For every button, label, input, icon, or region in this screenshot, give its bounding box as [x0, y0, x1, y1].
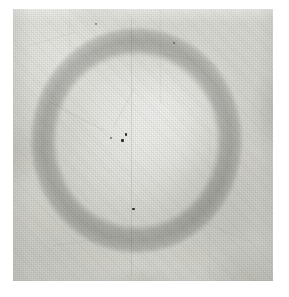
vertical-scratch-left [69, 9, 70, 69]
halftone-diagonal-overlay [13, 9, 273, 281]
dark-speck [110, 137, 112, 139]
dark-speck [173, 42, 175, 44]
paper-plate [13, 9, 273, 281]
dark-speck [132, 208, 135, 210]
dark-speck [121, 139, 124, 142]
vertical-scratch-upper [160, 9, 161, 104]
dark-speck [95, 23, 97, 25]
vertical-scratch-right [209, 129, 210, 279]
dark-speck [125, 133, 127, 136]
vertical-crease-line [131, 19, 132, 277]
image-canvas: Scanned paper plate with faint circular … [0, 0, 289, 297]
